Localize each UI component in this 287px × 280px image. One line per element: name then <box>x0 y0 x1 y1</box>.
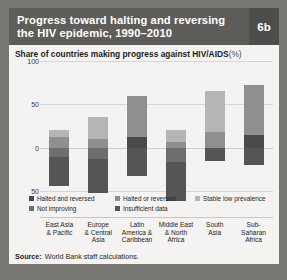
legend-swatch-icon <box>195 196 200 201</box>
bar-column[interactable] <box>163 61 189 191</box>
source-label: Source: <box>15 252 42 261</box>
x-axis-label-line: Africa <box>156 236 195 244</box>
bar-segment <box>166 148 186 162</box>
bar-segment <box>88 159 108 193</box>
chart-panel: Share of countries making progress again… <box>9 45 279 249</box>
x-axis-label-line: America & <box>118 229 157 237</box>
x-axis-label-line: Europe <box>79 221 118 229</box>
legend-label: Halted or reversed <box>123 195 176 202</box>
legend-row: Halted and reversedHalted or reversedSta… <box>29 195 279 202</box>
x-axis-label: LatinAmerica &Caribbean <box>118 221 157 251</box>
legend-item[interactable]: Insufficient data <box>115 205 195 212</box>
x-axis-label-line: Caribbean <box>118 236 157 244</box>
x-axis-label: Europe& CentralAsia <box>79 221 118 251</box>
chart-legend: Halted and reversedHalted or reversedSta… <box>29 195 279 214</box>
bar-segment <box>49 157 69 186</box>
bar-segment <box>205 91 225 132</box>
y-axis-tick: 50 <box>15 188 39 195</box>
x-axis-label-line: Sub-Saharan <box>234 221 273 236</box>
bar-segment <box>244 135 264 148</box>
title-line-1: Progress toward halting and reversing <box>17 14 249 27</box>
bar-group <box>40 61 273 191</box>
page-title: Progress toward halting and reversing th… <box>9 14 249 40</box>
x-axis-label-line: & Pacific <box>40 229 79 237</box>
chart-subtitle-unit: (%) <box>229 49 242 59</box>
x-axis-label-line: Africa <box>234 236 273 244</box>
bar-column[interactable] <box>85 61 111 191</box>
bar-segment <box>49 137 69 147</box>
chart-subtitle: Share of countries making progress again… <box>15 49 277 59</box>
gridline-50 <box>40 191 273 192</box>
title-line-2: the HIV epidemic, 1990–2010 <box>17 27 249 40</box>
bar-segment <box>166 130 186 142</box>
legend-label: Not improving <box>37 205 76 212</box>
x-axis-label-line: Asia <box>195 229 234 237</box>
figure-header: Progress toward halting and reversing th… <box>9 8 279 45</box>
legend-swatch-icon <box>115 206 120 211</box>
y-axis-tick: 50 <box>15 101 39 108</box>
bar-segment <box>205 148 225 161</box>
bar-segment <box>127 137 147 147</box>
bar-segment <box>205 132 225 148</box>
x-axis-label-line: & Central <box>79 229 118 237</box>
chart-subtitle-text: Share of countries making progress again… <box>15 49 229 59</box>
figure-number-badge: 6b <box>249 8 279 45</box>
x-axis-label: Middle East& NorthAfrica <box>156 221 195 251</box>
legend-row: Not improvingInsufficient data <box>29 205 279 212</box>
bar-segment <box>127 148 147 177</box>
bar-segment <box>49 148 69 158</box>
y-axis-tick: 0 <box>15 144 39 151</box>
legend-item[interactable]: Halted or reversed <box>115 195 195 202</box>
bar-segment <box>88 139 108 148</box>
source-note: Source:World Bank staff calculations. <box>9 249 279 264</box>
bar-segment <box>88 117 108 139</box>
source-text: World Bank staff calculations. <box>45 252 139 261</box>
legend-swatch-icon <box>29 206 34 211</box>
x-axis-label: SouthAsia <box>195 221 234 251</box>
bar-column[interactable] <box>46 61 72 191</box>
y-axis-tick: 100 <box>15 58 39 65</box>
bar-column[interactable] <box>241 61 267 191</box>
bar-segment <box>127 96 147 138</box>
legend-swatch-icon <box>115 196 120 201</box>
x-axis-label-line: Latin <box>118 221 157 229</box>
bar-column[interactable] <box>202 61 228 191</box>
bar-segment <box>244 148 264 165</box>
legend-item[interactable]: Halted and reversed <box>29 195 115 202</box>
plot-area: 10050050 <box>9 61 279 191</box>
x-axis-label-line: Middle East <box>156 221 195 229</box>
legend-label: Insufficient data <box>123 205 168 212</box>
bar-segment <box>49 130 69 137</box>
x-axis-label: East Asia& Pacific <box>40 221 79 251</box>
x-axis-label: Sub-SaharanAfrica <box>234 221 273 251</box>
legend-label: Halted and reversed <box>37 195 95 202</box>
x-axis-labels: East Asia& PacificEurope& CentralAsiaLat… <box>40 217 273 251</box>
bar-segment <box>244 85 264 134</box>
x-axis-label-line: South <box>195 221 234 229</box>
legend-item[interactable]: Not improving <box>29 205 115 212</box>
bar-column[interactable] <box>124 61 150 191</box>
figure-container: Progress toward halting and reversing th… <box>0 0 287 280</box>
legend-swatch-icon <box>29 196 34 201</box>
legend-label: Stable low prevalence <box>203 195 266 202</box>
x-axis-label-line: East Asia <box>40 221 79 229</box>
x-axis-label-line: & North <box>156 229 195 237</box>
legend-item[interactable]: Stable low prevalence <box>195 195 266 202</box>
bar-segment <box>88 148 108 159</box>
x-axis-label-line: Asia <box>79 236 118 244</box>
